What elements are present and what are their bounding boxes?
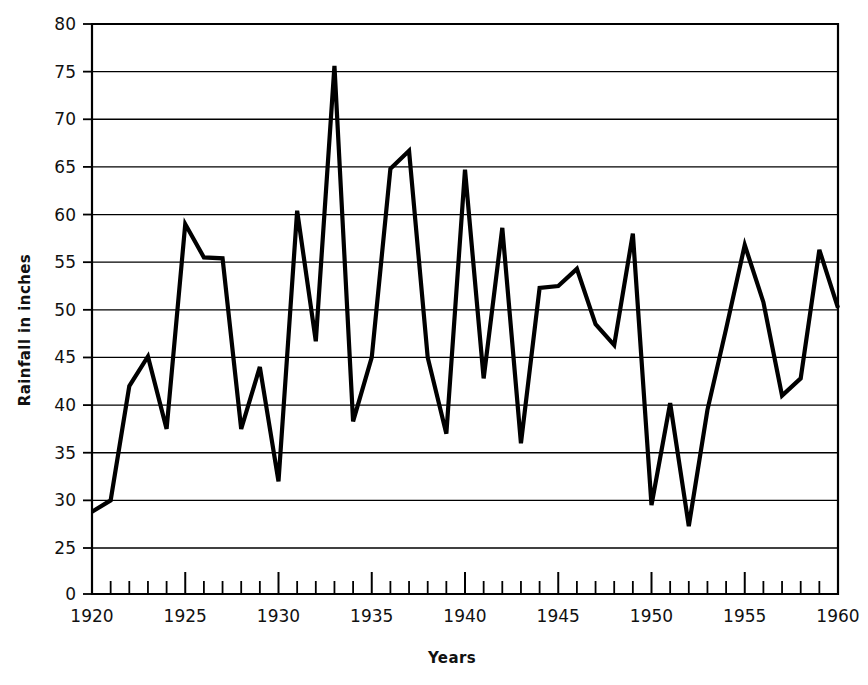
y-tick-label-25: 25	[54, 538, 76, 558]
y-tick-label-45: 45	[54, 347, 76, 367]
y-tick-label-65: 65	[54, 157, 76, 177]
y-tick-label-55: 55	[54, 252, 76, 272]
x-tick-label-1935: 1935	[350, 606, 393, 626]
y-tick-label-75: 75	[54, 62, 76, 82]
x-axis-title: Years	[427, 649, 476, 667]
x-tick-label-1920: 1920	[70, 606, 113, 626]
frame-rect	[92, 24, 838, 594]
rainfall-line-chart-figure: 0253035404550556065707580 19201925193019…	[0, 0, 868, 685]
gridline-group	[83, 24, 838, 594]
x-tick-label-1950: 1950	[630, 606, 673, 626]
plot-frame	[92, 24, 838, 594]
y-tick-label-40: 40	[54, 395, 76, 415]
x-axis-tick-group	[92, 572, 838, 594]
y-tick-label-60: 60	[54, 205, 76, 225]
x-tick-label-1960: 1960	[816, 606, 859, 626]
y-tick-label-0: 0	[65, 584, 76, 604]
x-axis-tick-label-group: 192019251930193519401945195019551960	[70, 606, 859, 626]
x-tick-label-1940: 1940	[443, 606, 486, 626]
y-tick-label-80: 80	[54, 14, 76, 34]
y-axis-title: Rainfall in inches	[16, 254, 34, 406]
y-tick-label-35: 35	[54, 443, 76, 463]
x-tick-label-1925: 1925	[164, 606, 207, 626]
chart-canvas: 0253035404550556065707580 19201925193019…	[0, 0, 868, 685]
y-axis-tick-label-group: 0253035404550556065707580	[54, 14, 76, 604]
y-tick-label-70: 70	[54, 109, 76, 129]
x-tick-label-1955: 1955	[723, 606, 766, 626]
rainfall-series-line	[92, 66, 838, 526]
x-tick-label-1930: 1930	[257, 606, 300, 626]
y-tick-label-50: 50	[54, 300, 76, 320]
y-tick-label-30: 30	[54, 490, 76, 510]
x-tick-label-1945: 1945	[537, 606, 580, 626]
